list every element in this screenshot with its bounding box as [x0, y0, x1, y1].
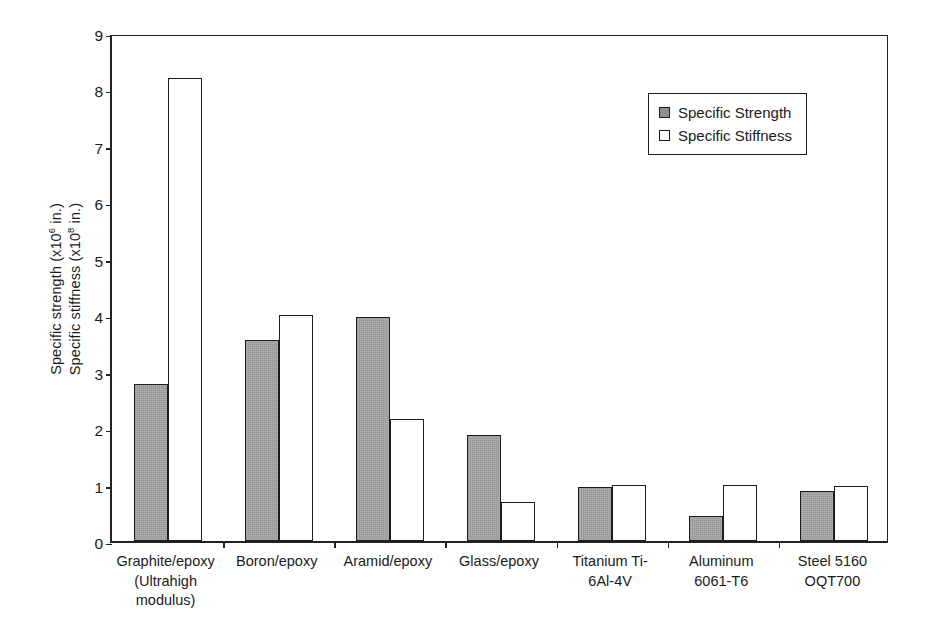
y-axis-title-line-strength: Specific strength (x106 in.): [47, 203, 66, 375]
y-axis-title-line-stiffness-pre: Specific stiffness (x10: [67, 233, 83, 375]
x-axis-category-labels: Graphite/epoxy(Ultrahighmodulus)Boron/ep…: [110, 552, 888, 632]
bar-stiffness: [834, 486, 868, 541]
legend-item-specific-strength[interactable]: Specific Strength: [659, 101, 792, 124]
x-axis-separator-tick: [223, 541, 225, 548]
x-axis-category-label: Aramid/epoxy: [332, 552, 443, 572]
x-axis-separator-tick: [779, 541, 781, 548]
x-axis-category-label-line: OQT700: [777, 572, 888, 592]
chart-legend: Specific StrengthSpecific Stiffness: [648, 93, 807, 155]
x-axis-category-label: Steel 5160OQT700: [777, 552, 888, 591]
x-axis-category-label: Boron/epoxy: [221, 552, 332, 572]
y-axis-tick-label: 2: [94, 421, 103, 441]
x-axis-category-label: Glass/epoxy: [443, 552, 554, 572]
bar-stiffness: [501, 502, 535, 542]
x-axis-category-label-line: Titanium Ti-: [555, 552, 666, 572]
bar-stiffness: [612, 485, 646, 541]
legend-item-label: Specific Stiffness: [678, 127, 792, 144]
y-axis-title-line-stiffness: Specific stiffness (x108 in.): [66, 203, 85, 375]
x-axis-category-label: Titanium Ti-6Al-4V: [555, 552, 666, 591]
y-axis-tick-label: 5: [94, 252, 103, 272]
x-axis-category-label: Aluminum6061-T6: [666, 552, 777, 591]
x-axis-category-label-line: 6Al-4V: [555, 572, 666, 592]
bar-strength: [800, 491, 834, 541]
y-axis-title-line-strength-exponent: 6: [46, 228, 57, 233]
legend-item-label: Specific Strength: [678, 104, 791, 121]
bar-strength: [245, 340, 279, 542]
bar-strength: [134, 384, 168, 541]
bar-stiffness: [168, 78, 202, 541]
filled-gray-swatch: [659, 107, 670, 118]
x-axis-category-label-line: Aramid/epoxy: [332, 552, 443, 572]
x-axis-category-label-line: (Ultrahigh: [110, 572, 221, 592]
y-axis-title-line-stiffness-exponent: 8: [65, 228, 76, 233]
y-axis-tick-mark: [106, 544, 112, 546]
x-axis-category-label-line: modulus): [110, 591, 221, 611]
y-axis-tick-label: 9: [94, 26, 103, 46]
y-axis-tick-label: 7: [94, 139, 103, 159]
bar-strength: [689, 516, 723, 541]
bar-stiffness: [390, 419, 424, 541]
x-axis-category-label-line: Steel 5160: [777, 552, 888, 572]
bar-stiffness: [279, 315, 313, 541]
y-axis-tick-label: 0: [94, 534, 103, 554]
y-axis-tick-label: 4: [94, 308, 103, 328]
y-axis-tick-label: 3: [94, 365, 103, 385]
hollow-white-swatch: [659, 130, 670, 141]
x-axis-separator-tick: [334, 541, 336, 548]
y-axis-tick-label: 8: [94, 82, 103, 102]
y-axis-title-line-stiffness-post: in.): [67, 203, 83, 228]
x-axis-separator-tick: [668, 541, 670, 548]
bar-stiffness: [723, 485, 757, 541]
bar-strength: [356, 317, 390, 541]
x-axis-separator-tick: [557, 541, 559, 548]
bar-strength: [578, 487, 612, 541]
y-axis-title-text: Specific strength (x106 in.) Specific st…: [47, 203, 85, 375]
y-axis-title-line-strength-pre: Specific strength (x10: [48, 233, 64, 375]
y-axis-title-line-strength-post: in.): [48, 203, 64, 228]
x-axis-category-label-line: Graphite/epoxy: [110, 552, 221, 572]
x-axis-separator-tick: [445, 541, 447, 548]
x-axis-category-label: Graphite/epoxy(Ultrahighmodulus): [110, 552, 221, 611]
y-axis-tick-label: 6: [94, 195, 103, 215]
bar-strength: [467, 435, 501, 541]
y-axis-title: Specific strength (x106 in.) Specific st…: [46, 35, 86, 543]
legend-item-specific-stiffness[interactable]: Specific Stiffness: [659, 124, 792, 147]
x-axis-category-label-line: Boron/epoxy: [221, 552, 332, 572]
bar-chart-figure: Specific strength (x106 in.) Specific st…: [0, 0, 930, 634]
x-axis-category-label-line: Aluminum: [666, 552, 777, 572]
y-axis-tick-label: 1: [94, 478, 103, 498]
x-axis-category-label-line: Glass/epoxy: [443, 552, 554, 572]
x-axis-category-label-line: 6061-T6: [666, 572, 777, 592]
